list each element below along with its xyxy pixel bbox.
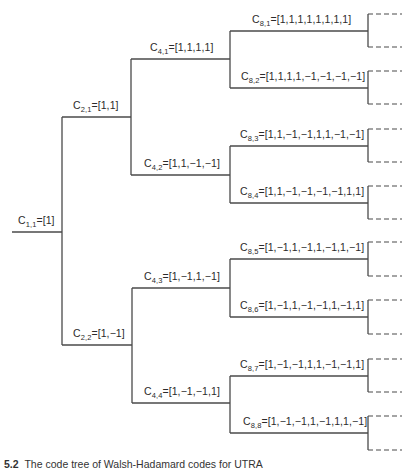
dashed-continuations bbox=[368, 14, 402, 450]
figure-caption: 5.2 The code tree of Walsh-Hadamard code… bbox=[4, 458, 263, 470]
node-label-c8-1: C8,1=[1,1,1,1,1,1,1,1] bbox=[252, 13, 351, 25]
node-label-c4-1: C4,1=[1,1,1,1] bbox=[150, 41, 214, 53]
node-label-c4-3: C4,3=[1,−1,1,−1] bbox=[144, 270, 220, 282]
node-label-c4-4: C4,4=[1,−1,−1,1] bbox=[144, 385, 220, 397]
node-label-c2-2: C2,2=[1,−1] bbox=[73, 327, 125, 339]
node-label-c1-1: C1,1=[1] bbox=[18, 214, 55, 226]
node-label-c8-6: C8,6=[1,−1,1,−1,−1,1,−1,1] bbox=[240, 299, 364, 311]
node-label-c8-8: C8,8=[1,−1,−1,1,−1,1,1,−1] bbox=[243, 415, 367, 427]
node-label-c8-5: C8,5=[1,−1,1,−1,1,−1,1,−1] bbox=[240, 241, 364, 253]
node-label-c4-2: C4,2=[1,1,−1,−1] bbox=[144, 157, 220, 169]
node-label-c8-7: C8,7=[1,−1,−1,1,1,−1,−1,1] bbox=[240, 358, 364, 370]
node-label-c2-1: C2,1=[1,1] bbox=[73, 99, 119, 111]
node-label-c8-4: C8,4=[1,1,−1,−1,−1,−1,1,1] bbox=[240, 185, 364, 197]
node-label-c8-3: C8,3=[1,1,−1,−1,1,1,−1,−1] bbox=[240, 128, 364, 140]
node-label-c8-2: C8,2=[1,1,1,1,−1,−1,−1,−1] bbox=[241, 70, 365, 82]
